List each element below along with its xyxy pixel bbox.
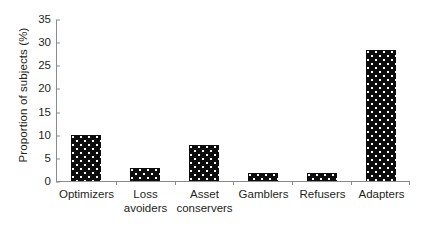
bar-chart-figure: Proportion of subjects (%) 0510152025303… xyxy=(0,0,427,227)
bar xyxy=(71,135,101,181)
bar-slot xyxy=(292,20,351,181)
x-axis-label: Asset conservers xyxy=(175,188,234,215)
x-axis-label: Adapters xyxy=(352,188,411,215)
bar-slot xyxy=(351,20,410,181)
x-axis-label: Optimizers xyxy=(57,188,116,215)
plot-area: 05101520253035 xyxy=(56,20,410,182)
bar-slot xyxy=(57,20,116,181)
bars-layer xyxy=(57,20,410,181)
bar-slot xyxy=(175,20,234,181)
bar xyxy=(130,168,160,181)
x-axis-label: Gamblers xyxy=(234,188,293,215)
y-tick-label: 5 xyxy=(45,153,51,165)
y-tick-label: 15 xyxy=(38,107,51,119)
y-tick-label: 35 xyxy=(38,14,51,26)
y-axis-title: Proportion of subjects (%) xyxy=(14,4,32,186)
x-axis-label: Loss avoiders xyxy=(116,188,175,215)
x-category-tick xyxy=(292,181,293,185)
bar-slot xyxy=(116,20,175,181)
bar xyxy=(189,145,219,181)
y-tick-label: 10 xyxy=(38,130,51,142)
x-category-tick xyxy=(409,181,410,185)
y-tick-label: 25 xyxy=(38,61,51,73)
bar-slot xyxy=(233,20,292,181)
bar xyxy=(366,50,396,181)
x-category-tick xyxy=(351,181,352,185)
y-tick-mark xyxy=(56,182,60,183)
bar xyxy=(307,173,337,181)
y-tick-label: 0 xyxy=(45,176,51,188)
x-category-tick xyxy=(116,181,117,185)
x-axis-labels: OptimizersLoss avoidersAsset conserversG… xyxy=(57,188,411,215)
y-tick-label: 20 xyxy=(38,84,51,96)
x-category-tick xyxy=(175,181,176,185)
x-axis-label: Refusers xyxy=(293,188,352,215)
x-category-tick xyxy=(233,181,234,185)
bar xyxy=(248,173,278,181)
y-tick-label: 30 xyxy=(38,37,51,49)
